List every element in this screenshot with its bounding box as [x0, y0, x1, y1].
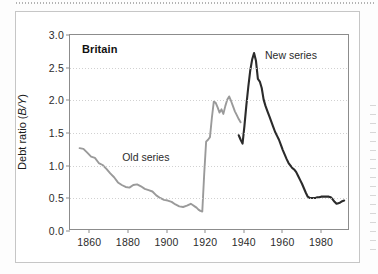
y-tick-label: 0.0 [49, 225, 64, 237]
series-lines [70, 35, 348, 229]
x-tick-label: 1940 [232, 236, 256, 248]
y-tick-label: 3.0 [49, 29, 64, 41]
y-tick-mark [66, 231, 70, 232]
page-canvas: Debt ratio (B/Y) Britain Old series New … [0, 0, 378, 274]
x-tick-mark [166, 229, 167, 233]
debt-ratio-chart: Debt ratio (B/Y) Britain Old series New … [16, 12, 361, 264]
x-tick-label: 1980 [309, 236, 333, 248]
y-tick-mark [66, 35, 70, 36]
gridline-y [70, 68, 348, 69]
x-tick-mark [321, 229, 322, 233]
y-axis-label-main: Debt ratio ( [16, 115, 28, 169]
figure-frame: Debt ratio (B/Y) Britain Old series New … [15, 11, 360, 263]
series-line-old-series [80, 96, 241, 211]
x-tick-mark [243, 229, 244, 233]
x-tick-mark [89, 229, 90, 233]
x-tick-label: 1880 [116, 236, 140, 248]
y-axis-label-italic: B/Y [16, 98, 28, 116]
y-tick-label: 1.0 [49, 160, 64, 172]
x-tick-label: 1920 [193, 236, 217, 248]
y-axis-label: Debt ratio (B/Y) [16, 94, 28, 170]
y-tick-mark [66, 100, 70, 101]
y-tick-mark [66, 198, 70, 199]
x-tick-label: 1960 [270, 236, 294, 248]
y-tick-label: 2.0 [49, 94, 64, 106]
gridline-y [70, 133, 348, 134]
gridline-y [70, 166, 348, 167]
y-tick-label: 1.5 [49, 127, 64, 139]
y-axis-label-close: ) [16, 94, 28, 98]
x-tick-label: 1860 [77, 236, 101, 248]
plot-area: Britain Old series New series 0.00.51.01… [69, 34, 349, 230]
gridline-y [70, 100, 348, 101]
y-tick-mark [66, 133, 70, 134]
y-tick-mark [66, 165, 70, 166]
scan-artifact-right-margin [370, 105, 376, 255]
scan-artifact-top-rule [16, 2, 376, 4]
gridline-y [70, 198, 348, 199]
x-tick-mark [282, 229, 283, 233]
series-line-new-series [239, 53, 344, 204]
y-tick-label: 0.5 [49, 192, 64, 204]
x-tick-label: 1900 [154, 236, 178, 248]
x-tick-mark [127, 229, 128, 233]
y-tick-label: 2.5 [49, 62, 64, 74]
x-tick-mark [205, 229, 206, 233]
y-tick-mark [66, 67, 70, 68]
